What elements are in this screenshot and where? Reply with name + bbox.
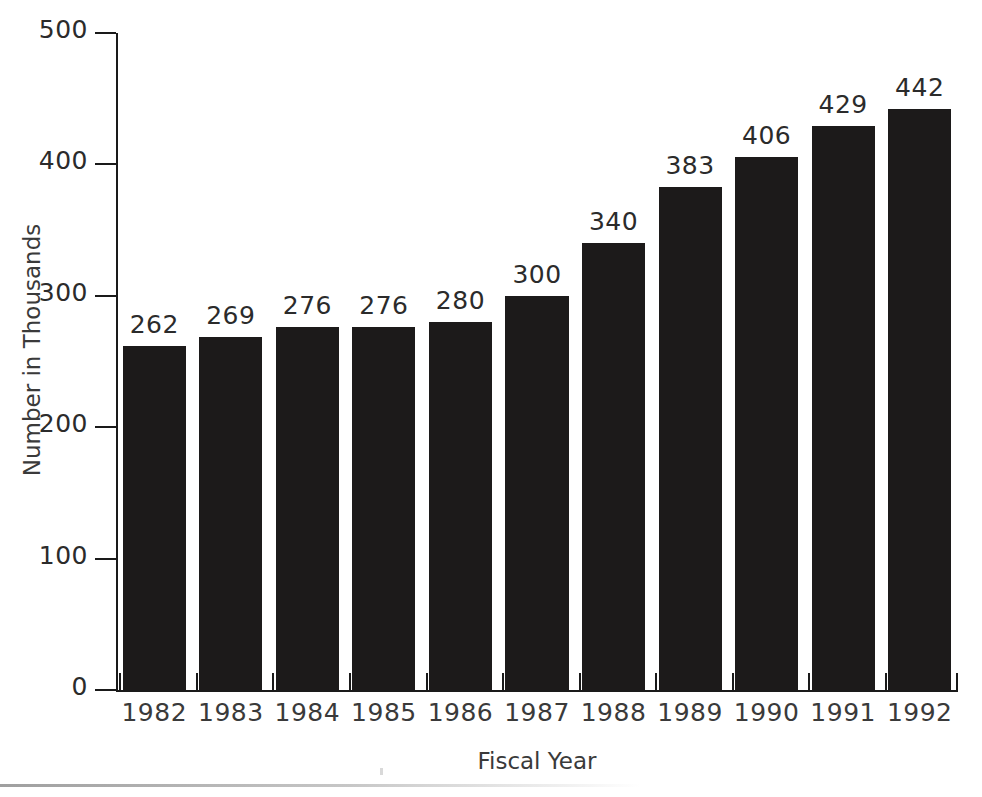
- x-axis-title: Fiscal Year: [116, 748, 958, 774]
- y-axis-tick: [95, 32, 116, 34]
- page-scan-edge: [0, 784, 640, 787]
- y-axis-tick-label: 500: [39, 15, 88, 44]
- x-axis-tick: [196, 673, 198, 690]
- y-axis-tick-label: 400: [39, 146, 88, 175]
- y-axis-tick-label: 0: [72, 672, 88, 701]
- scan-artifact-speck: [380, 768, 383, 775]
- x-axis-tick: [272, 673, 274, 690]
- bar: [352, 327, 415, 690]
- chart-page: 0100200300400500 26226927627628030034038…: [0, 0, 982, 797]
- y-axis-tick: [95, 295, 116, 297]
- y-axis-tick: [95, 558, 116, 560]
- bar: [735, 157, 798, 690]
- bar-value-label: 442: [868, 73, 971, 102]
- bar-value-label: 280: [409, 286, 512, 315]
- bar: [276, 327, 339, 690]
- bar-value-label: 300: [485, 260, 588, 289]
- bar: [659, 187, 722, 690]
- x-axis-tick: [885, 673, 887, 690]
- bar: [582, 243, 645, 690]
- x-axis-tick: [579, 673, 581, 690]
- x-axis-category-label: 1992: [870, 698, 969, 727]
- x-axis-tick: [655, 673, 657, 690]
- bar-value-label: 406: [715, 121, 818, 150]
- x-axis-tick: [956, 673, 958, 690]
- y-axis-tick-label: 100: [39, 541, 88, 570]
- x-axis-line: [116, 690, 958, 692]
- y-axis-tick-label: 200: [39, 409, 88, 438]
- x-axis-tick: [732, 673, 734, 690]
- bar: [199, 337, 262, 690]
- bar: [812, 126, 875, 690]
- y-axis-line: [116, 33, 118, 692]
- y-axis-tick: [95, 426, 116, 428]
- x-axis-tick: [502, 673, 504, 690]
- y-axis-title: Number in Thousands: [19, 190, 45, 510]
- y-axis-tick-label: 300: [39, 278, 88, 307]
- x-axis-tick: [349, 673, 351, 690]
- y-axis-tick: [95, 163, 116, 165]
- bar: [429, 322, 492, 690]
- x-axis-tick: [119, 673, 121, 690]
- bar-value-label: 340: [562, 207, 665, 236]
- x-axis-tick: [426, 673, 428, 690]
- bar-chart: 0100200300400500 26226927627628030034038…: [0, 0, 982, 797]
- bar-value-label: 383: [639, 151, 742, 180]
- y-axis-tick: [95, 689, 116, 691]
- bar: [888, 109, 951, 690]
- bar: [123, 346, 186, 690]
- bar: [505, 296, 568, 690]
- x-axis-tick: [808, 673, 810, 690]
